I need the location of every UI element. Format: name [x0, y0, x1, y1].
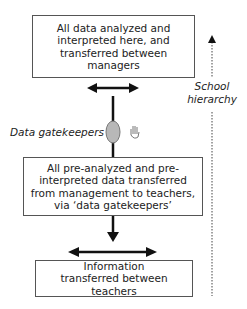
middle-box: All pre-analyzed and pre-interpreted dat… — [23, 157, 203, 216]
bottom-box: Information transferred between teachers — [35, 260, 193, 297]
bottom-bidirectional-arrow — [68, 247, 157, 257]
hierarchy-label: School hierarchy — [186, 80, 238, 106]
gatekeeper-ellipse — [106, 121, 120, 143]
top-box: All data analyzed and interpreted here, … — [32, 15, 195, 78]
hand-icon — [131, 126, 139, 138]
hierarchy-label-line1: School — [186, 80, 238, 93]
middle-box-text: All pre-analyzed and pre-interpreted dat… — [28, 162, 198, 212]
bottom-box-text: Information transferred between teachers — [56, 260, 172, 298]
top-box-text: All data analyzed and interpreted here, … — [37, 22, 190, 72]
hierarchy-label-line2: hierarchy — [186, 93, 238, 106]
down-arrow — [107, 216, 119, 242]
top-bidirectional-arrow — [87, 83, 139, 93]
gatekeeper-label: Data gatekeepers — [10, 126, 104, 139]
hierarchy-dotted-arrow — [208, 35, 216, 296]
